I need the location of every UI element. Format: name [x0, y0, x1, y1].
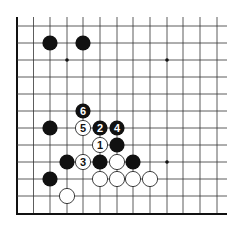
black-stone-icon	[92, 154, 107, 169]
black-stone-icon	[42, 35, 57, 50]
black-stone	[109, 137, 124, 152]
move-number-label: 2	[97, 122, 103, 134]
black-stone: 2	[92, 120, 107, 135]
black-stone-icon	[59, 154, 74, 169]
white-stone: 3	[75, 154, 90, 169]
white-stone: 1	[92, 137, 107, 152]
white-stone-icon	[59, 188, 74, 203]
move-number-label: 5	[80, 122, 86, 134]
go-board: 652413	[0, 0, 243, 227]
black-stone	[125, 154, 140, 169]
black-stone-icon	[75, 35, 90, 50]
star-point-icon	[165, 160, 169, 164]
star-point-icon	[165, 58, 169, 62]
white-stone	[142, 171, 157, 186]
black-stone-icon	[125, 154, 140, 169]
white-stone-icon	[142, 171, 157, 186]
black-stone	[42, 120, 57, 135]
black-stone-icon	[42, 120, 57, 135]
white-stone-icon	[92, 171, 107, 186]
black-stone: 6	[75, 103, 90, 118]
white-stone	[109, 154, 124, 169]
white-stone: 5	[75, 120, 90, 135]
black-stone	[75, 35, 90, 50]
black-stone	[92, 154, 107, 169]
black-stone	[59, 154, 74, 169]
white-stone	[109, 171, 124, 186]
white-stone-icon	[125, 171, 140, 186]
white-stone-icon	[109, 154, 124, 169]
black-stone-icon	[42, 171, 57, 186]
white-stone	[59, 188, 74, 203]
black-stone	[42, 35, 57, 50]
white-stone	[125, 171, 140, 186]
black-stone-icon	[109, 137, 124, 152]
white-stone-icon	[109, 171, 124, 186]
move-number-label: 6	[80, 105, 86, 117]
move-number-label: 1	[97, 139, 103, 151]
white-stone	[92, 171, 107, 186]
star-point-icon	[65, 58, 69, 62]
black-stone: 4	[109, 120, 124, 135]
move-number-label: 3	[80, 156, 86, 168]
move-number-label: 4	[114, 122, 121, 134]
black-stone	[42, 171, 57, 186]
